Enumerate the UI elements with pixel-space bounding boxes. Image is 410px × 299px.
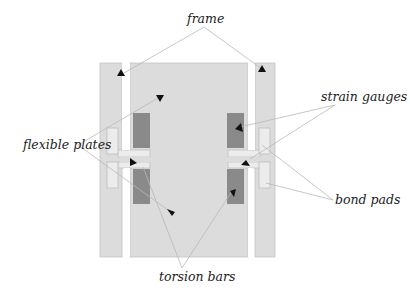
left-torsion-bar	[118, 150, 152, 168]
left-slot-lower	[124, 168, 130, 257]
right-torsion-bar	[226, 150, 260, 168]
bond-pad-left-lower	[107, 162, 118, 188]
frame-left-bar	[100, 63, 122, 257]
label-strain-gauges: strain gauges	[321, 91, 407, 104]
label-frame: frame	[187, 13, 224, 26]
strain-gauge-left-upper	[133, 113, 150, 148]
label-torsion-bars: torsion bars	[159, 271, 235, 284]
label-bond-pads: bond pads	[335, 194, 400, 207]
right-slot-upper	[248, 63, 255, 150]
right-slot-lower	[248, 168, 253, 257]
strain-gauge-right-lower	[227, 169, 244, 204]
bond-pad-right-lower	[259, 162, 270, 188]
left-slot-upper	[122, 63, 130, 150]
label-flexible-plates: flexible plates	[23, 139, 111, 152]
